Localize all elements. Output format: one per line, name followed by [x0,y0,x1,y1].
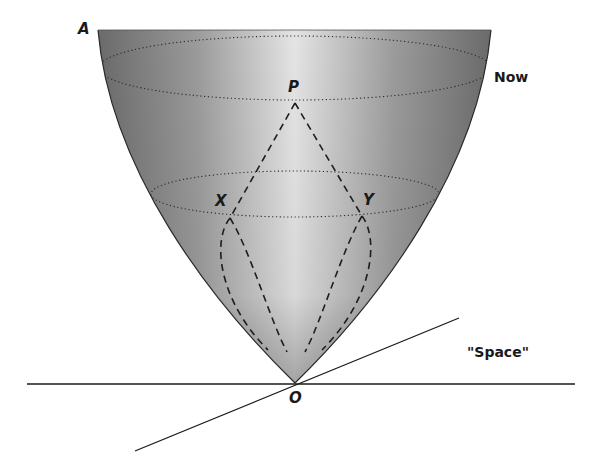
label-space: "Space" [467,345,529,359]
label-x: X [215,194,227,209]
label-y: Y [363,193,374,208]
label-o: O [289,391,302,406]
label-a: A [78,22,90,37]
label-now: Now [494,70,528,84]
label-p: P [288,80,299,95]
spacetime-diagram: A Now P X Y O "Space" [0,0,595,474]
